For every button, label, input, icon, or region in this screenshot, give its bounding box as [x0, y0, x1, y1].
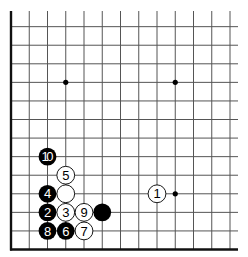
go-board: 12345678910 [0, 0, 248, 257]
black-stone-4: 4 [39, 185, 57, 203]
move-number: 5 [62, 168, 69, 183]
star-point-icon [173, 80, 178, 85]
black-stone-6: 6 [57, 222, 75, 240]
white-stone-5: 5 [57, 166, 75, 184]
move-number: 4 [44, 186, 51, 201]
move-number: 6 [62, 224, 69, 239]
move-number: 7 [80, 224, 87, 239]
white-stone-7: 7 [75, 222, 93, 240]
black-stone-10: 10 [39, 148, 57, 166]
move-number: 10 [42, 149, 54, 164]
white-stone [57, 185, 75, 203]
stone-circle [93, 203, 111, 221]
black-stone-2: 2 [39, 203, 57, 221]
move-number: 9 [80, 205, 87, 220]
move-number: 8 [44, 224, 51, 239]
move-number: 2 [44, 205, 51, 220]
white-stone-3: 3 [57, 203, 75, 221]
move-number: 1 [153, 186, 160, 201]
black-stone-8: 8 [39, 222, 57, 240]
white-stone-1: 1 [148, 185, 166, 203]
white-stone-9: 9 [75, 203, 93, 221]
move-number: 3 [62, 205, 69, 220]
star-point-icon [173, 191, 178, 196]
star-point-icon [63, 80, 68, 85]
stone-circle [57, 185, 75, 203]
black-stone [93, 203, 111, 221]
